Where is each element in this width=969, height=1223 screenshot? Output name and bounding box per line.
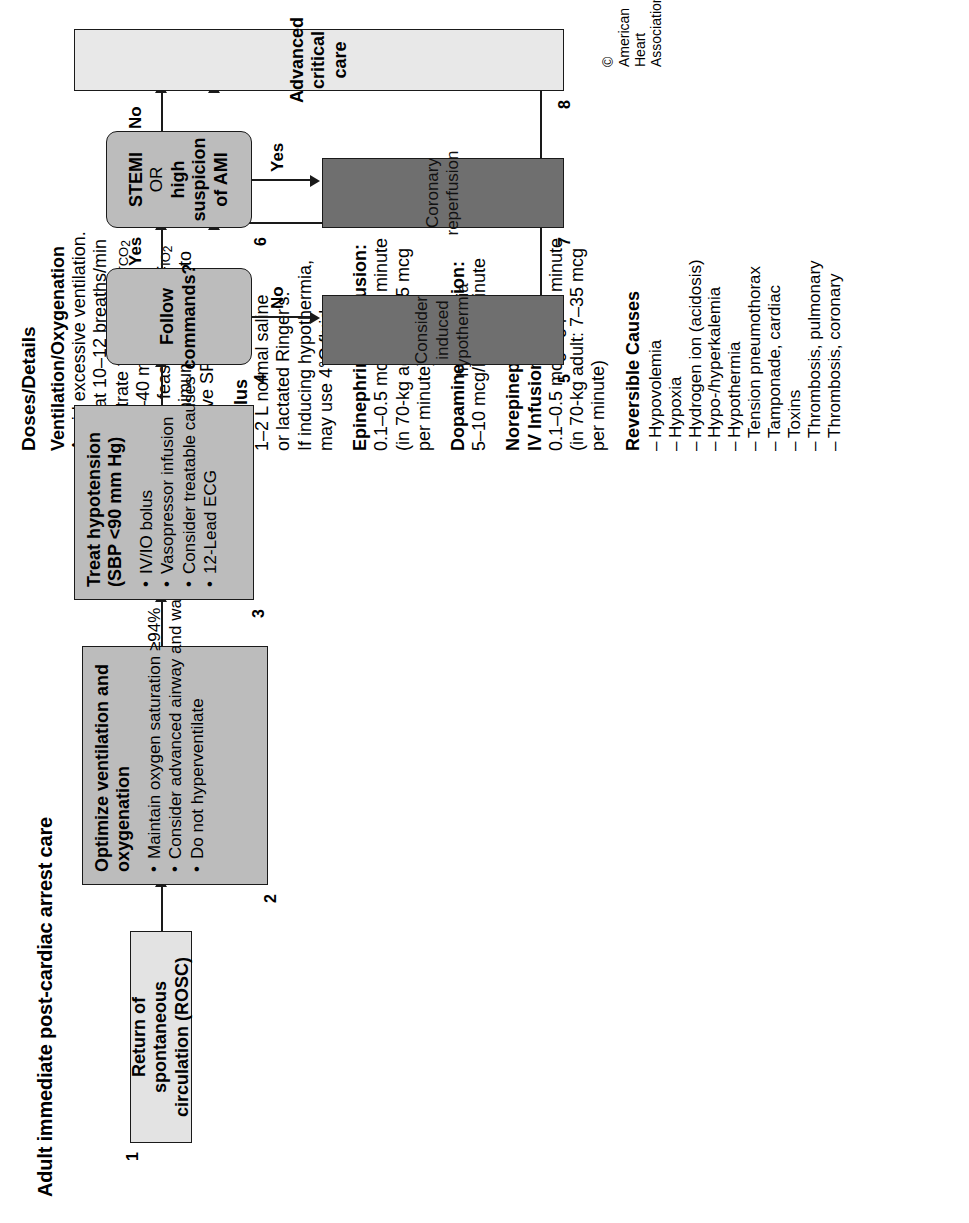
list-item: Maintain oxygen saturation ≥94% <box>144 659 165 872</box>
section-line: If inducing hypothermia, <box>295 151 316 451</box>
list-item: –Hypoxia <box>666 151 686 451</box>
connector-1-to-2 <box>161 885 163 931</box>
flow-box-treat-hypotension[interactable]: Treat hypotension (SBP <90 mm Hg) IV/IO … <box>74 405 254 600</box>
list-item: –Thrombosis, coronary <box>825 151 845 451</box>
flow-box-optimize-ventilation[interactable]: Optimize ventilation and oxygenation Mai… <box>82 646 268 885</box>
edge-label-no-from-4: No <box>268 286 288 309</box>
list-item: Vasopressor infusion <box>157 418 178 587</box>
box-title: Coronary reperfusion <box>423 150 464 235</box>
step-number-3: 3 <box>250 609 268 618</box>
section-line: per minute) <box>588 151 609 451</box>
step-number-6: 6 <box>252 237 270 246</box>
page-title: Adult immediate post-cardiac arrest care <box>34 817 57 1197</box>
arrow-4-to-5 <box>310 312 320 324</box>
list-item: –Hypothermia <box>725 151 745 451</box>
box-title: OR <box>147 137 167 221</box>
doses-column-title: Doses/Details <box>18 326 40 451</box>
box-bullet-list: Maintain oxygen saturation ≥94% Consider… <box>144 659 208 872</box>
algorithm-canvas: Adult immediate post-cardiac arrest care… <box>0 0 969 1223</box>
connector-5-right <box>540 222 542 295</box>
list-item: Do not hyperventilate <box>187 659 208 872</box>
rotated-artwork-wrapper: Adult immediate post-cardiac arrest care… <box>0 0 969 1223</box>
step-number-5: 5 <box>556 374 574 383</box>
box-title: Return of spontaneous circulation (ROSC) <box>129 944 194 1130</box>
connector-6-down <box>252 179 312 181</box>
box-title: commands? <box>179 263 201 369</box>
connector-4-down <box>252 316 312 318</box>
flow-box-stemi[interactable]: STEMI OR high suspicion of AMI <box>106 131 252 228</box>
step-number-2: 2 <box>262 894 280 903</box>
list-item: –Hypovolemia <box>646 151 666 451</box>
connector-6-to-8 <box>161 91 163 131</box>
step-number-4: 4 <box>252 374 270 383</box>
box-title: Consider induced hypothermia <box>412 283 473 377</box>
flow-box-rosc[interactable]: Return of spontaneous circulation (ROSC) <box>130 931 192 1143</box>
edge-label-yes-from-6: Yes <box>268 143 288 172</box>
edge-label-no-from-6: No <box>126 106 146 129</box>
flow-box-advanced-critical-care[interactable]: Advanced critical care <box>74 29 564 91</box>
list-item: –Tension pneumothorax <box>745 151 765 451</box>
edge-label-yes-from-4: Yes <box>126 237 146 266</box>
box-title: Follow <box>157 263 179 369</box>
section-heading: Ventilation/Oxygenation <box>48 151 69 451</box>
list-item: –Toxins <box>785 151 805 451</box>
box-title: Advanced critical care <box>287 17 352 103</box>
step-number-1: 1 <box>124 1152 142 1161</box>
list-item: IV/IO bolus <box>136 418 157 587</box>
box-title: Treat hypotension (SBP <90 mm Hg) <box>84 418 126 587</box>
flow-box-induced-hypothermia[interactable]: Consider induced hypothermia <box>322 295 564 365</box>
section-heading: Reversible Causes <box>623 151 644 451</box>
box-title: high suspicion of AMI <box>168 137 233 221</box>
list-item: –Thrombosis, pulmonary <box>805 151 825 451</box>
list-item: –Hypo-/hyperkalemia <box>705 151 725 451</box>
copyright-notice: © American Heart Association <box>600 0 664 67</box>
step-number-8: 8 <box>556 100 574 109</box>
connector-3-to-4 <box>161 365 163 405</box>
section-line: (in 70-kg adult: 7–35 mcg <box>567 151 588 451</box>
list-item: 12-Lead ECG <box>200 418 221 587</box>
connector-4-to-6 <box>161 228 163 268</box>
box-title: STEMI <box>126 137 148 221</box>
reversible-causes-list: –Hypovolemia –Hypoxia –Hydrogen ion (aci… <box>646 151 845 451</box>
list-item: –Tamponade, cardiac <box>765 151 785 451</box>
box-bullet-list: IV/IO bolus Vasopressor infusion Conside… <box>136 418 222 587</box>
list-item: Consider treatable causes <box>179 418 200 587</box>
connector-7-right <box>540 85 542 158</box>
doses-section-reversible-causes: Reversible Causes –Hypovolemia –Hypoxia … <box>623 151 845 451</box>
arrow-6-to-7 <box>310 175 320 187</box>
list-item: –Hydrogen ion (acidosis) <box>686 151 706 451</box>
list-item: Consider advanced airway and waveform ca… <box>165 659 186 872</box>
flow-box-follow-commands[interactable]: Follow commands? <box>106 268 252 365</box>
step-number-7: 7 <box>556 237 574 246</box>
flow-box-coronary-reperfusion[interactable]: Coronary reperfusion <box>322 158 564 228</box>
box-title: Optimize ventilation and oxygenation <box>92 659 134 872</box>
